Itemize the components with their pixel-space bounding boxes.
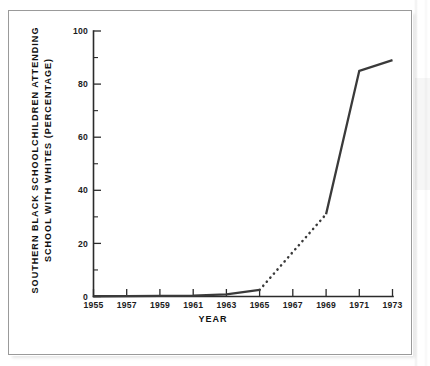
- x-tick-label-1973: 1973: [383, 300, 403, 310]
- page-edge-shadow-block: [415, 78, 430, 190]
- y-tick-label-60: 60: [78, 132, 88, 142]
- x-axis-title: YEAR: [198, 314, 227, 324]
- x-tick-label-1967: 1967: [283, 300, 303, 310]
- y-axis-ticks: [94, 31, 102, 297]
- x-tick-label-1955: 1955: [84, 300, 104, 310]
- page-edge-artifact-left: [414, 0, 418, 366]
- x-tick-label-1959: 1959: [150, 300, 170, 310]
- x-tick-label-1957: 1957: [117, 300, 137, 310]
- y-axis-title-line1: SOUTHERN BLACK SCHOOLCHILDREN ATTENDING: [30, 27, 40, 294]
- y-axis-title: SOUTHERN BLACK SCHOOLCHILDREN ATTENDING …: [30, 27, 53, 294]
- y-tick-label-40: 40: [78, 185, 88, 195]
- page-edge-artifact-right: [424, 0, 428, 366]
- y-axis-tick-labels: 0 20 40 60 80 100: [73, 26, 88, 302]
- x-tick-label-1961: 1961: [183, 300, 203, 310]
- y-tick-label-20: 20: [78, 239, 88, 249]
- x-tick-label-1963: 1963: [216, 300, 236, 310]
- series-segment-observed-early: [94, 290, 260, 296]
- line-chart: SOUTHERN BLACK SCHOOLCHILDREN ATTENDING …: [8, 10, 412, 355]
- x-tick-label-1965: 1965: [250, 300, 270, 310]
- x-tick-label-1971: 1971: [349, 300, 369, 310]
- figure-root: SOUTHERN BLACK SCHOOLCHILDREN ATTENDING …: [0, 0, 430, 366]
- x-tick-label-1969: 1969: [316, 300, 336, 310]
- series-segment-observed-late: [326, 60, 392, 214]
- y-tick-label-100: 100: [73, 26, 88, 36]
- data-series-group: [94, 60, 393, 296]
- y-tick-label-80: 80: [78, 79, 88, 89]
- x-axis-tick-labels: 1955 1957 1959 1961 1963 1965 1967 1969 …: [84, 300, 403, 310]
- series-segment-interpolated-gap: [260, 214, 326, 290]
- y-axis-title-line2: SCHOOL WITH WHITES (PERCENTAGE): [43, 58, 53, 262]
